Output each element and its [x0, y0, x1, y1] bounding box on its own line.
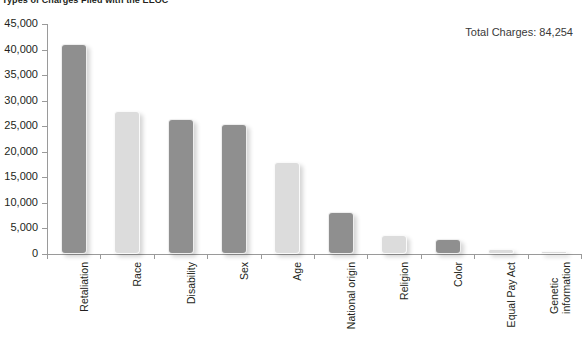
- x-tick: [154, 254, 155, 259]
- y-tick: 15,000: [42, 177, 47, 178]
- bar-age: [274, 162, 300, 254]
- y-tick: 20,000: [42, 152, 47, 153]
- bar-religion: [381, 235, 407, 254]
- bar-genetic-information: [541, 251, 567, 254]
- plot-area: 45,00040,00035,00030,00025,00020,00015,0…: [47, 24, 581, 254]
- x-tick: [47, 254, 48, 259]
- y-axis-line: [47, 24, 48, 254]
- y-tick-label: 10,000: [4, 196, 38, 209]
- y-tick: 5,000: [42, 228, 47, 229]
- x-label-sex: Sex: [238, 262, 250, 280]
- bar-equal-pay-act: [488, 249, 514, 254]
- y-tick: 45,000: [42, 24, 47, 25]
- bar-chart-figure: Types of Charges Filed with the EEOC Tot…: [0, 0, 585, 352]
- y-tick-label: 5,000: [10, 221, 38, 234]
- x-label-national-origin: National origin: [345, 262, 357, 329]
- x-label-religion: Religion: [398, 262, 410, 300]
- x-label-equal-pay-act: Equal Pay Act: [505, 262, 517, 327]
- x-label-retaliation: Retaliation: [78, 262, 90, 312]
- x-tick: [421, 254, 422, 259]
- x-tick: [528, 254, 529, 259]
- x-label-genetic-information: Genetic information: [548, 262, 572, 314]
- bar-race: [114, 111, 140, 254]
- x-tick: [314, 254, 315, 259]
- y-tick-label: 30,000: [4, 94, 38, 107]
- y-tick: 30,000: [42, 101, 47, 102]
- x-label-race: Race: [131, 262, 143, 287]
- x-label-color: Color: [452, 262, 464, 287]
- y-tick: 35,000: [42, 75, 47, 76]
- bar-national-origin: [328, 212, 354, 254]
- x-label-disability: Disability: [185, 262, 197, 304]
- y-tick-label: 0: [32, 247, 38, 260]
- y-tick-label: 35,000: [4, 68, 38, 81]
- y-tick-label: 20,000: [4, 145, 38, 158]
- y-tick-label: 45,000: [4, 17, 38, 30]
- y-tick-label: 25,000: [4, 119, 38, 132]
- bar-color: [435, 239, 461, 254]
- bar-sex: [221, 124, 247, 254]
- x-label-age: Age: [291, 262, 303, 281]
- x-tick: [367, 254, 368, 259]
- x-tick: [207, 254, 208, 259]
- y-tick: 25,000: [42, 126, 47, 127]
- bar-disability: [168, 119, 194, 254]
- y-tick: 40,000: [42, 50, 47, 51]
- x-tick: [261, 254, 262, 259]
- y-tick: 10,000: [42, 203, 47, 204]
- y-tick-label: 40,000: [4, 43, 38, 56]
- x-tick: [474, 254, 475, 259]
- page-title: Types of Charges Filed with the EEOC: [2, 0, 168, 5]
- y-tick-label: 15,000: [4, 170, 38, 183]
- x-tick: [581, 254, 582, 259]
- bar-retaliation: [61, 44, 87, 254]
- x-tick: [100, 254, 101, 259]
